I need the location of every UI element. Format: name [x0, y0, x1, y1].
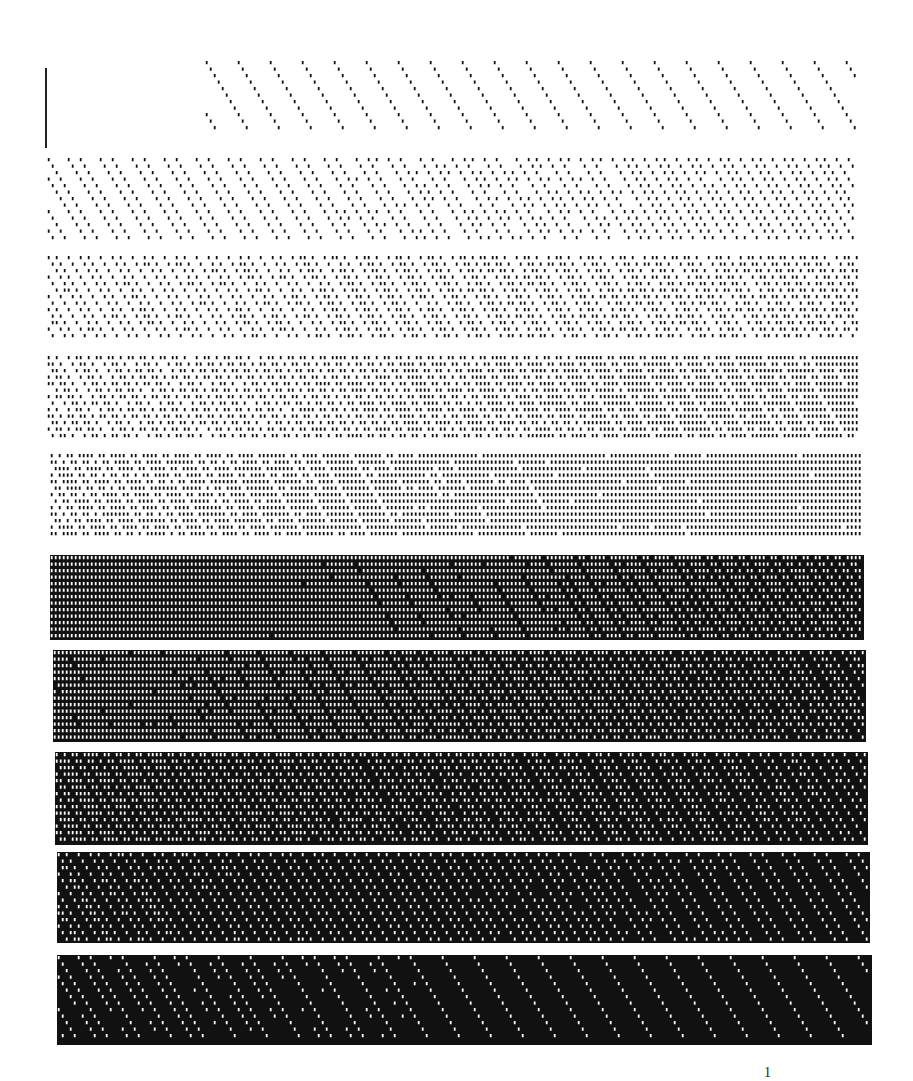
halftone-band-3	[47, 255, 860, 340]
halftone-band-9	[57, 852, 870, 943]
halftone-band-7	[53, 650, 866, 742]
halftone-band-6	[50, 555, 864, 640]
halftone-band-5	[50, 453, 862, 540]
halftone-band-2	[47, 157, 858, 243]
page-number: 1	[764, 1066, 771, 1080]
halftone-band-10	[57, 955, 872, 1045]
registration-line	[45, 68, 47, 148]
halftone-band-8	[55, 752, 868, 845]
halftone-band-4	[47, 355, 861, 440]
halftone-band-1	[205, 60, 858, 135]
